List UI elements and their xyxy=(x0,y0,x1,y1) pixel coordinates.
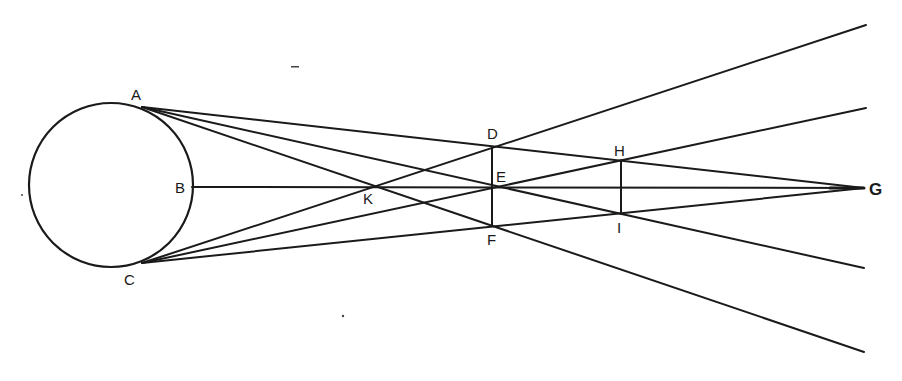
stray-dot xyxy=(342,315,344,317)
stray-mark xyxy=(291,66,299,68)
label-e: E xyxy=(496,168,506,185)
ray-diagram: A B C D E F G H I K xyxy=(0,0,902,381)
stray-dot xyxy=(21,194,23,196)
label-g: G xyxy=(869,180,882,199)
line-b-g xyxy=(192,187,864,188)
circle xyxy=(29,103,193,267)
label-a: A xyxy=(131,86,141,103)
line-c-g xyxy=(142,188,864,263)
label-h: H xyxy=(614,142,625,159)
label-k: K xyxy=(363,190,373,207)
label-f: F xyxy=(487,231,496,248)
label-d: D xyxy=(487,125,498,142)
label-i: I xyxy=(617,219,621,236)
label-c: C xyxy=(124,271,135,288)
label-b: B xyxy=(175,179,185,196)
